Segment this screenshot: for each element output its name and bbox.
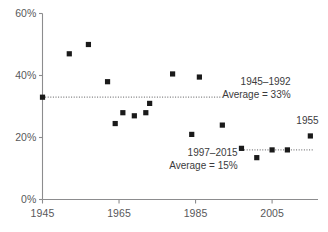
trend-lines-group: [43, 97, 315, 150]
data-point: [197, 74, 202, 79]
lower-annotation-range: 1997–2015: [169, 146, 237, 159]
x-axis-tick-label: 2005: [242, 207, 302, 219]
scatter-plot-svg: [0, 0, 328, 232]
point-year-label: 1955: [296, 115, 318, 126]
axes-group: [39, 14, 318, 204]
data-point: [147, 101, 152, 106]
data-point: [308, 133, 313, 138]
x-axis-tick-label: 1985: [166, 207, 226, 219]
data-point: [285, 147, 290, 152]
data-point: [170, 71, 175, 76]
data-point: [220, 123, 225, 128]
data-point: [67, 51, 72, 56]
upper-annotation-average: Average = 33%: [222, 88, 290, 101]
data-point: [239, 146, 244, 151]
x-axis-tick-label: 1965: [89, 207, 149, 219]
upper-annotation-range: 1945–1992: [222, 75, 290, 88]
data-point: [40, 95, 45, 100]
y-axis-tick-label: 20%: [15, 131, 36, 143]
lower-average-annotation: 1997–2015 Average = 15%: [169, 146, 237, 172]
y-axis-tick-label: 0%: [21, 193, 36, 205]
lower-annotation-average: Average = 15%: [169, 159, 237, 172]
data-point: [143, 110, 148, 115]
data-point: [105, 79, 110, 84]
y-axis-tick-label: 40%: [15, 69, 36, 81]
data-point: [113, 121, 118, 126]
data-points-group: [40, 42, 313, 160]
data-point: [269, 147, 274, 152]
data-point: [254, 155, 259, 160]
x-axis-tick-label: 1945: [13, 207, 73, 219]
chart-container: 0%20%40%60% 1945196519852005 1945–1992 A…: [0, 0, 328, 232]
y-axis-tick-label: 60%: [15, 7, 36, 19]
data-point: [120, 110, 125, 115]
data-point: [189, 132, 194, 137]
upper-average-annotation: 1945–1992 Average = 33%: [222, 75, 290, 101]
data-point: [132, 113, 137, 118]
data-point: [86, 42, 91, 47]
